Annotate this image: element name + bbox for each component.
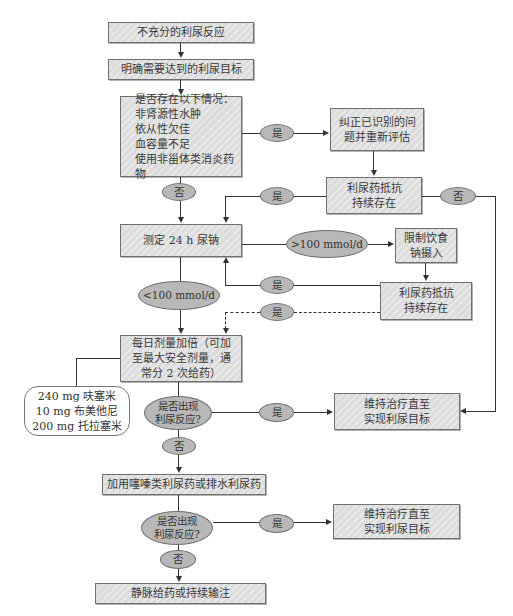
connector: [422, 196, 440, 197]
connector: [225, 285, 260, 286]
resistance-label-1: 利尿药抵抗 持续存在: [347, 181, 402, 211]
start-label: 不充分的利尿反应: [137, 25, 225, 40]
connector: [225, 196, 260, 197]
arrow-down-icon: [176, 576, 182, 582]
arrow-down-icon: [223, 328, 229, 334]
lt100-oval: <100 mmol/d: [138, 281, 220, 310]
arrow-left-icon: [460, 408, 466, 414]
yes-oval-3: 是: [260, 276, 294, 294]
gt100-label: >100 mmol/d: [291, 238, 363, 251]
yes-label: 是: [272, 406, 282, 419]
yes-oval-dashed: 是: [260, 303, 294, 321]
no-label: 否: [453, 190, 463, 203]
arrow-right-icon: [388, 241, 394, 247]
resistance-box-2: 利尿药抵抗 持续存在: [380, 282, 472, 320]
arrow-down-icon: [178, 328, 184, 334]
connector: [368, 244, 389, 245]
double-dose-box: 每日剂量加倍（可加 至最大安全剂量，通 常分 2 次给药）: [120, 335, 242, 382]
correct-problems-box: 纠正已识别的问 题并重新评估: [330, 108, 424, 151]
correct-problems-label: 纠正已识别的问 题并重新评估: [339, 115, 416, 145]
connector: [180, 201, 181, 218]
connector: [294, 196, 326, 197]
connector: [213, 522, 259, 523]
no-label: 否: [174, 186, 184, 199]
double-dose-label: 每日剂量加倍（可加 至最大安全剂量，通 常分 2 次给药）: [132, 336, 231, 381]
restrict-sodium-box: 限制饮食 钠摄入: [395, 228, 457, 263]
connector: [76, 358, 120, 359]
yes-label: 是: [272, 306, 282, 319]
arrow-down-icon: [176, 467, 182, 473]
response-question-oval-2: 是否出现 利尿反应?: [141, 511, 213, 545]
arrow-right-icon: [326, 519, 332, 525]
measure-sodium-label: 测定 24 h 尿钠: [143, 233, 219, 248]
yes-oval-2: 是: [260, 187, 294, 205]
connector: [294, 285, 380, 286]
connector: [178, 430, 179, 437]
add-thiazide-label: 加用噻嗪类利尿药或排水利尿药: [107, 477, 261, 492]
connector: [294, 522, 327, 523]
arrow-up-icon: [223, 257, 229, 263]
goal-box: 明确需要达到的利尿目标: [108, 59, 254, 80]
max-doses-box: 240 mg 呋塞米 10 mg 布美他尼 200 mg 托拉塞米: [24, 386, 130, 436]
dashed-connector: [294, 312, 380, 313]
restrict-sodium-label: 限制饮食 钠摄入: [404, 231, 448, 261]
connector: [476, 196, 496, 197]
dashed-connector: [225, 312, 260, 313]
connector: [373, 151, 374, 171]
add-thiazide-box: 加用噻嗪类利尿药或排水利尿药: [102, 474, 266, 495]
measure-sodium-box: 测定 24 h 尿钠: [120, 224, 242, 257]
yes-oval-1: 是: [260, 124, 294, 142]
yes-label: 是: [272, 127, 282, 140]
arrow-down-icon: [423, 275, 429, 281]
yes-label: 是: [272, 190, 282, 203]
resistance-label-2: 利尿药抵抗 持续存在: [399, 286, 454, 316]
connector: [495, 196, 496, 412]
connector: [180, 310, 181, 329]
no-label: 否: [174, 440, 184, 453]
arrow-right-icon: [323, 130, 329, 136]
yes-label: 是: [272, 279, 282, 292]
connector: [178, 382, 179, 396]
connector: [180, 257, 181, 281]
connector: [178, 545, 179, 550]
no-label: 否: [173, 553, 183, 566]
conditions-label: 是否存在以下情况： 非肾源性水肿 依从性欠佳 血容量不足 使用非甾体类消炎药物: [135, 92, 241, 182]
arrow-right-icon: [327, 409, 333, 415]
yes-oval-6: 是: [259, 514, 294, 533]
connector: [178, 495, 179, 511]
arrow-down-icon: [371, 170, 377, 176]
iv-infusion-box: 静脉给药或持续输注: [95, 583, 266, 604]
goal-label: 明确需要达到的利尿目标: [121, 62, 242, 77]
maintain-box-2: 维持治疗直至 实现利尿目标: [333, 504, 460, 539]
no-oval-1: 否: [162, 183, 196, 201]
arrow-down-icon: [178, 89, 184, 95]
resistance-box-1: 利尿药抵抗 持续存在: [326, 177, 422, 214]
dashed-connector: [225, 312, 226, 329]
arrow-down-icon: [223, 217, 229, 223]
no-oval-resistance: 否: [440, 187, 476, 205]
yes-oval-5: 是: [259, 403, 294, 422]
connector: [242, 133, 260, 134]
connector: [225, 263, 226, 286]
connector: [242, 244, 286, 245]
lt100-label: <100 mmol/d: [143, 289, 215, 302]
maintain-label-2: 维持治疗直至 实现利尿目标: [364, 507, 430, 537]
arrow-down-icon: [178, 217, 184, 223]
maintain-label-1: 维持治疗直至 实现利尿目标: [364, 397, 430, 427]
no-oval-2: 否: [162, 437, 196, 455]
iv-infusion-label: 静脉给药或持续输注: [131, 586, 230, 601]
connector: [180, 177, 181, 183]
conditions-box: 是否存在以下情况： 非肾源性水肿 依从性欠佳 血容量不足 使用非甾体类消炎药物: [120, 96, 242, 177]
response-question-oval-1: 是否出现 利尿反应?: [144, 396, 212, 430]
response-question-label: 是否出现 利尿反应?: [154, 515, 200, 541]
connector: [294, 133, 324, 134]
connector: [212, 412, 259, 413]
connector: [466, 411, 496, 412]
maintain-box-1: 维持治疗直至 实现利尿目标: [334, 393, 460, 430]
yes-label: 是: [272, 517, 282, 530]
connector: [76, 358, 77, 386]
connector: [225, 196, 226, 218]
arrow-down-icon: [178, 52, 184, 58]
no-oval-3: 否: [160, 550, 196, 569]
response-question-label: 是否出现 利尿反应?: [155, 400, 201, 426]
